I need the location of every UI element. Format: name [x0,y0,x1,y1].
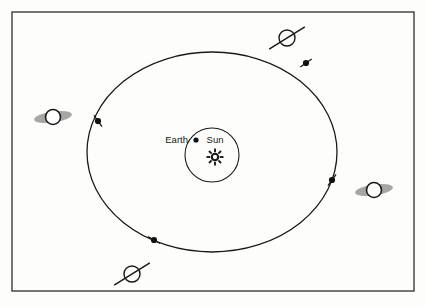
marker-dot [151,237,157,243]
marker-upper-right [300,59,311,67]
marker-lower-right [328,174,336,185]
diagram-border-frame [12,12,414,291]
sun-label: Sun [207,134,224,145]
planet-right-open-rings [354,182,393,198]
marker-lower-left [148,237,160,244]
earth-label: Earth [165,134,188,145]
planet-body [46,110,61,125]
diagram-svg: Earth Sun [0,0,426,307]
sun-ray [218,160,221,163]
marker-dot [329,177,335,183]
planet-left-open-rings [33,109,72,125]
diagram-canvas: Earth Sun [0,0,426,307]
marker-dot [95,118,101,124]
marker-left [94,115,102,126]
planet-top-edge-on-rings [269,27,305,49]
sun-icon [207,149,224,166]
sun-ray [209,160,212,163]
outer-orbit-ellipse [87,52,337,252]
planet-body [367,183,382,198]
planet-bottom-edge-on-rings [114,263,150,285]
sun-ray [209,151,212,154]
marker-dot [303,60,309,66]
earth-dot [193,137,198,142]
sun-core [212,154,218,160]
sun-ray [218,151,221,154]
